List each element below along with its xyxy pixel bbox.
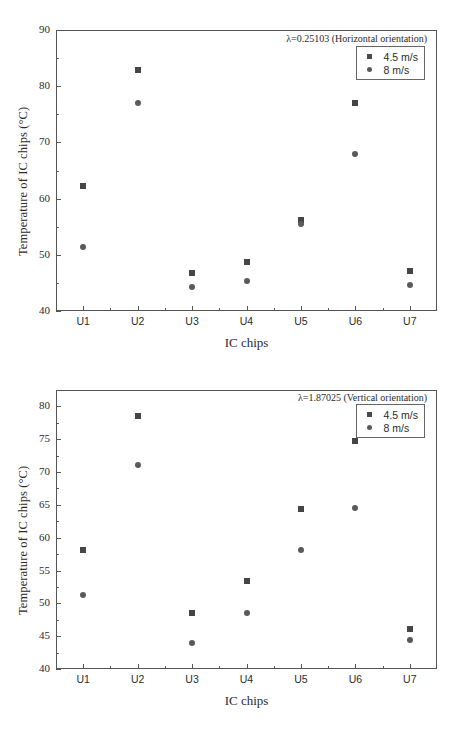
legend-label-8ms-bottom: 8 m/s [384, 422, 410, 434]
x-tick-major [247, 306, 248, 311]
x-tick-minor [219, 666, 220, 669]
y-tick-label: 40 [22, 304, 50, 316]
x-tick-major [301, 664, 302, 669]
y-tick-major [56, 30, 61, 31]
y-tick-major [56, 571, 61, 572]
data-point-square-U2 [135, 413, 141, 419]
y-axis-title-top: Temperature of IC chips (°C) [16, 106, 31, 255]
y-tick-minor [56, 58, 59, 59]
square-marker-icon [362, 54, 378, 59]
x-tick-minor [219, 308, 220, 311]
data-point-circle-U3 [189, 640, 195, 646]
x-tick-major [247, 664, 248, 669]
legend-bottom: 4.5 m/s 8 m/s [356, 404, 425, 438]
x-tick-label-u1: U1 [63, 315, 103, 327]
y-tick-major [56, 439, 61, 440]
data-point-circle-U2 [135, 462, 141, 468]
y-tick-major [56, 669, 61, 670]
y-tick-major [56, 472, 61, 473]
data-point-circle-U5 [298, 221, 304, 227]
x-tick-label-u1: U1 [63, 673, 103, 685]
data-point-square-U3 [189, 610, 195, 616]
y-tick-label: 70 [22, 465, 50, 477]
data-point-circle-U1 [80, 592, 86, 598]
x-tick-major [410, 664, 411, 669]
x-tick-label-u3: U3 [172, 673, 212, 685]
x-tick-label-u5: U5 [281, 315, 321, 327]
y-tick-major [56, 142, 61, 143]
data-point-circle-U6 [352, 505, 358, 511]
x-tick-minor [328, 308, 329, 311]
data-point-square-U4 [244, 259, 250, 265]
x-tick-label-u5: U5 [281, 673, 321, 685]
y-tick-major [56, 311, 61, 312]
y-tick-label: 60 [22, 192, 50, 204]
x-tick-minor [274, 308, 275, 311]
y-tick-minor [56, 587, 59, 588]
y-tick-label: 75 [22, 432, 50, 444]
y-tick-label: 80 [22, 399, 50, 411]
x-tick-label-u4: U4 [227, 315, 267, 327]
y-tick-minor [56, 390, 59, 391]
data-point-square-U3 [189, 270, 195, 276]
x-axis-title-bottom: IC chips [56, 693, 437, 709]
legend-label-8ms-top: 8 m/s [384, 64, 410, 76]
y-tick-minor [56, 456, 59, 457]
y-tick-major [56, 636, 61, 637]
x-axis-title-top: IC chips [56, 335, 437, 351]
y-tick-label: 55 [22, 564, 50, 576]
data-point-square-U7 [407, 268, 413, 274]
y-tick-minor [56, 171, 59, 172]
x-tick-minor [383, 308, 384, 311]
data-point-square-U6 [352, 100, 358, 106]
y-tick-minor [56, 114, 59, 115]
y-tick-label: 90 [22, 23, 50, 35]
y-tick-minor [56, 521, 59, 522]
data-point-circle-U2 [135, 100, 141, 106]
y-tick-minor [56, 227, 59, 228]
y-tick-label: 70 [22, 135, 50, 147]
data-point-circle-U4 [244, 610, 250, 616]
circle-marker-icon [362, 67, 378, 72]
y-tick-minor [56, 554, 59, 555]
y-tick-minor [56, 423, 59, 424]
x-tick-label-u4: U4 [227, 673, 267, 685]
x-tick-major [83, 664, 84, 669]
legend-top: 4.5 m/s 8 m/s [356, 46, 425, 80]
x-tick-minor [110, 666, 111, 669]
x-tick-major [192, 664, 193, 669]
x-tick-minor [274, 666, 275, 669]
data-point-circle-U7 [407, 282, 413, 288]
legend-item-8ms-bottom: 8 m/s [362, 421, 418, 434]
legend-item-45ms-bottom: 4.5 m/s [362, 408, 418, 421]
x-tick-label-u6: U6 [335, 673, 375, 685]
x-tick-label-u6: U6 [335, 315, 375, 327]
x-tick-minor [110, 308, 111, 311]
y-tick-label: 80 [22, 79, 50, 91]
y-tick-minor [56, 488, 59, 489]
x-tick-major [192, 306, 193, 311]
y-tick-minor [56, 283, 59, 284]
y-tick-major [56, 603, 61, 604]
data-point-square-U1 [80, 547, 86, 553]
data-point-circle-U7 [407, 637, 413, 643]
legend-label-45ms-top: 4.5 m/s [384, 51, 418, 63]
figure-page: Temperature of IC chips (°C) IC chips λ=… [0, 0, 455, 733]
data-point-square-U7 [407, 626, 413, 632]
data-point-square-U6 [352, 438, 358, 444]
x-tick-minor [165, 308, 166, 311]
x-tick-major [355, 664, 356, 669]
legend-item-8ms-top: 8 m/s [362, 63, 418, 76]
data-point-square-U2 [135, 67, 141, 73]
x-tick-major [355, 306, 356, 311]
y-tick-label: 60 [22, 531, 50, 543]
y-tick-label: 45 [22, 629, 50, 641]
x-tick-label-u3: U3 [172, 315, 212, 327]
x-tick-major [138, 664, 139, 669]
y-tick-label: 65 [22, 498, 50, 510]
data-point-square-U5 [298, 506, 304, 512]
y-tick-label: 50 [22, 248, 50, 260]
legend-label-45ms-bottom: 4.5 m/s [384, 409, 418, 421]
x-tick-major [83, 306, 84, 311]
y-tick-major [56, 86, 61, 87]
